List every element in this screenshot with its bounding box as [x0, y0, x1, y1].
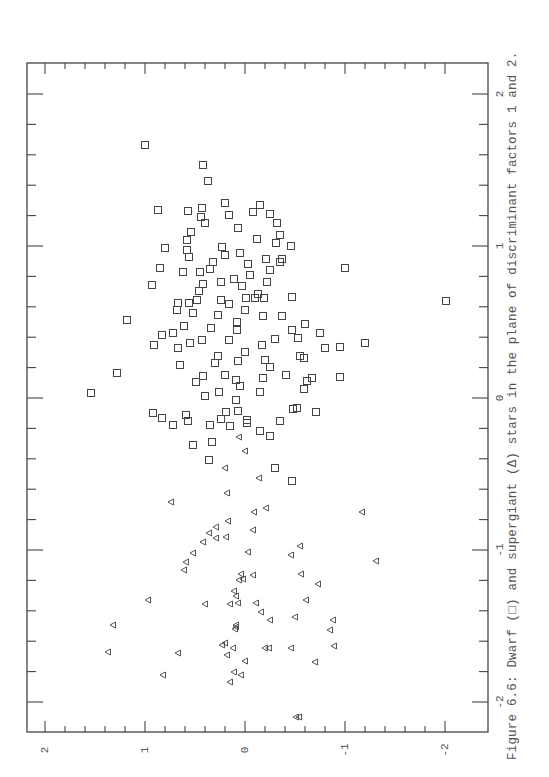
plot-frame [27, 63, 488, 732]
axis-ticks [27, 63, 488, 732]
svg-text:-2: -2 [439, 743, 451, 756]
figure-caption: Figure 6.6: Dwarf (□) and supergiant (Δ)… [506, 51, 520, 760]
axis-tick-labels: 210-1-2210-1-2 [39, 91, 506, 757]
supergiant-points [105, 434, 379, 720]
svg-text:1: 1 [494, 242, 506, 249]
svg-text:2: 2 [494, 91, 506, 98]
scatter-plot: 210-1-2210-1-2 [0, 0, 549, 777]
svg-text:0: 0 [494, 395, 506, 402]
svg-text:1: 1 [139, 746, 151, 753]
svg-text:-2: -2 [494, 695, 506, 708]
svg-text:2: 2 [39, 747, 51, 754]
svg-text:0: 0 [239, 747, 251, 754]
svg-text:-1: -1 [494, 543, 506, 557]
svg-text:-1: -1 [339, 743, 351, 757]
dwarf-points [88, 142, 450, 485]
